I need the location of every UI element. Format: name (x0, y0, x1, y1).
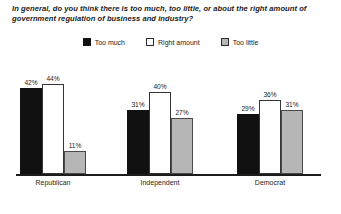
bar-wrap-republican-too-much: 42% (20, 88, 42, 174)
bar-value-republican-right-amount: 44% (38, 75, 68, 82)
bar-republican-too-little (64, 151, 86, 174)
bar-group-republican-bars: 42% 44% 11% (20, 84, 86, 174)
bar-democrat-too-little (281, 110, 303, 174)
bar-independent-too-little (171, 118, 193, 174)
bar-value-democrat-right-amount: 36% (255, 91, 285, 98)
bar-wrap-republican-too-little: 11% (64, 151, 86, 174)
bar-value-independent-too-little: 27% (167, 109, 197, 116)
bar-independent-right-amount (149, 92, 171, 174)
bar-group-democrat-bars: 29% 36% 31% (237, 100, 303, 174)
bar-wrap-independent-right-amount: 40% (149, 92, 171, 174)
x-axis-label-independent: Independent (110, 179, 210, 186)
x-axis-label-democrat: Democrat (220, 179, 320, 186)
x-axis-label-republican: Republican (3, 179, 103, 186)
bar-value-democrat-too-little: 31% (277, 101, 307, 108)
bar-democrat-too-much (237, 114, 259, 174)
x-axis-line (16, 174, 321, 176)
bar-wrap-independent-too-much: 31% (127, 110, 149, 174)
bar-group-independent-bars: 31% 40% 27% (127, 92, 193, 174)
bar-wrap-independent-too-little: 27% (171, 118, 193, 174)
bar-value-republican-too-little: 11% (60, 142, 90, 149)
bar-chart-plot: 42% 44% 11% Republican 31% 40% (0, 0, 341, 214)
bar-republican-too-much (20, 88, 42, 174)
bar-independent-too-much (127, 110, 149, 174)
bar-wrap-democrat-right-amount: 36% (259, 100, 281, 174)
bar-democrat-right-amount (259, 100, 281, 174)
bar-republican-right-amount (42, 84, 64, 174)
bar-value-independent-right-amount: 40% (145, 83, 175, 90)
bar-wrap-republican-right-amount: 44% (42, 84, 64, 174)
bar-wrap-democrat-too-little: 31% (281, 110, 303, 174)
bar-wrap-democrat-too-much: 29% (237, 114, 259, 174)
